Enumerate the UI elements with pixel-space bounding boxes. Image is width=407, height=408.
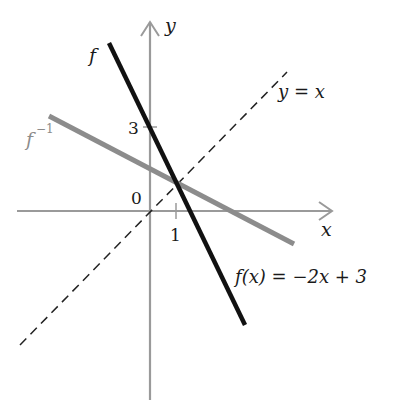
tick-x-1-label: 1 bbox=[170, 225, 181, 245]
y-axis-label: y bbox=[164, 14, 176, 36]
graph: y x 0 1 3 f f −1 y = x f(x) = −2x + 3 bbox=[0, 0, 407, 408]
f-inverse-label: f bbox=[24, 128, 36, 150]
f-label: f bbox=[87, 44, 99, 66]
x-axis-label: x bbox=[321, 218, 332, 240]
f-equation-label: f(x) = −2x + 3 bbox=[233, 266, 367, 287]
origin-label: 0 bbox=[131, 188, 142, 208]
tick-y-3-label: 3 bbox=[128, 118, 139, 138]
identity-label: y = x bbox=[277, 81, 325, 102]
f-line bbox=[109, 43, 245, 325]
identity-line bbox=[20, 72, 287, 345]
f-inverse-superscript: −1 bbox=[36, 122, 54, 136]
